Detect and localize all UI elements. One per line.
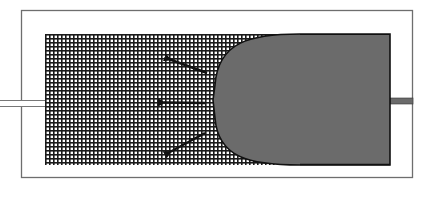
mold-filling-diagram [0, 0, 433, 204]
inlet-channel [0, 100, 45, 107]
fluid-front-region [213, 34, 390, 165]
arrow-left-icon [164, 103, 205, 104]
outlet-channel [390, 98, 413, 104]
